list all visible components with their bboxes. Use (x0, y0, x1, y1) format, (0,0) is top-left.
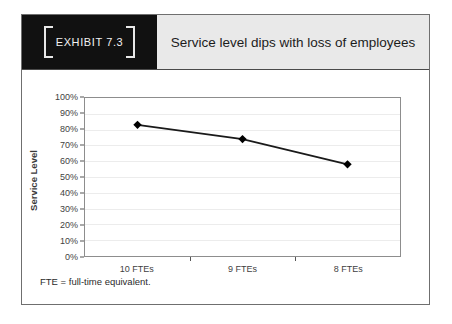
plot-wrap: 100%90%80%70%60%50%40%30%20%10%0% 10 FTE… (84, 97, 401, 257)
x-axis-tick-label: 10 FTEs (120, 264, 154, 274)
series-line (138, 125, 348, 165)
y-axis-tick-label: 30% (60, 204, 78, 214)
y-axis-tick-label: 0% (65, 252, 78, 262)
y-axis-tick-label: 70% (60, 140, 78, 150)
y-axis-tick-label: 40% (60, 188, 78, 198)
y-axis-tick (80, 113, 84, 114)
y-axis-tick (80, 193, 84, 194)
page-title: Service level dips with loss of employee… (171, 35, 416, 50)
y-axis-tick (80, 209, 84, 210)
right-bracket-icon (126, 26, 135, 58)
left-bracket-icon (44, 26, 53, 58)
y-axis-tick (80, 129, 84, 130)
y-axis-tick (80, 241, 84, 242)
data-point-marker (238, 135, 246, 143)
exhibit-frame: EXHIBIT 7.3 Service level dips with loss… (21, 14, 430, 305)
y-axis-tick-label: 50% (60, 172, 78, 182)
y-axis-tick-label: 60% (60, 156, 78, 166)
chart-body: Service Level 100%90%80%70%60%50%40%30%2… (22, 70, 429, 304)
title-band: Service level dips with loss of employee… (157, 15, 429, 69)
y-axis-tick-label: 90% (60, 108, 78, 118)
y-axis-tick (80, 225, 84, 226)
y-axis-tick (80, 145, 84, 146)
footnote: FTE = full-time equivalent. (40, 276, 151, 287)
x-axis-tick (295, 257, 296, 261)
data-point-marker (343, 160, 351, 168)
series-line-chart (85, 98, 400, 256)
y-axis-tick (80, 177, 84, 178)
x-axis-tick-label: 9 FTEs (228, 264, 257, 274)
y-axis-tick-label: 20% (60, 220, 78, 230)
exhibit-tag-label: EXHIBIT 7.3 (56, 36, 124, 48)
x-axis-tick-label: 8 FTEs (334, 264, 363, 274)
plot-area (84, 97, 401, 257)
y-axis-title-label: Service Level (28, 150, 39, 211)
y-axis-tick (80, 257, 84, 258)
exhibit-header: EXHIBIT 7.3 Service level dips with loss… (22, 15, 429, 70)
y-axis-title: Service Level (26, 100, 40, 260)
y-axis-tick-label: 80% (60, 124, 78, 134)
y-axis-tick (80, 161, 84, 162)
x-axis-tick (190, 257, 191, 261)
y-axis-tick-label: 100% (55, 92, 78, 102)
exhibit-tag: EXHIBIT 7.3 (22, 15, 157, 69)
y-axis-tick (80, 97, 84, 98)
y-axis-tick-label: 10% (60, 236, 78, 246)
data-point-marker (133, 121, 141, 129)
